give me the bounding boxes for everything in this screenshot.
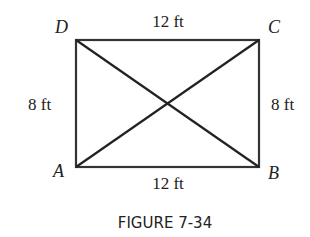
vertex-label-b: B (268, 163, 279, 183)
side-label-left: 8 ft (28, 95, 51, 114)
side-label-top: 12 ft (152, 12, 184, 31)
vertex-label-a: A (52, 161, 65, 181)
vertex-label-d: D (54, 17, 68, 37)
side-label-bottom: 12 ft (152, 174, 184, 193)
rectangle-diagram: D C A B 12 ft 12 ft 8 ft 8 ft FIGURE 7-3… (0, 0, 310, 237)
side-label-right: 8 ft (271, 95, 294, 114)
figure-caption: FIGURE 7-34 (118, 214, 212, 232)
vertex-label-c: C (268, 17, 281, 37)
